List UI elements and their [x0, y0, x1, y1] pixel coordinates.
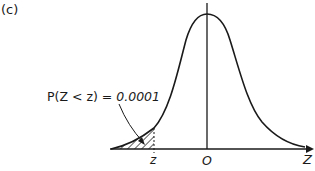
- normal-curve: [111, 14, 305, 149]
- normal-distribution-diagram: [0, 0, 315, 171]
- axis-variable-label: Z: [303, 152, 312, 167]
- annotation-value: 0.0001: [116, 89, 160, 104]
- annotation-prefix: P(Z < z) =: [47, 89, 116, 104]
- panel-label: (c): [1, 2, 18, 17]
- probability-annotation: P(Z < z) = 0.0001: [47, 89, 160, 104]
- shaded-tail-region: [111, 128, 154, 149]
- annotation-pointer: [119, 104, 143, 142]
- origin-label: O: [202, 153, 212, 168]
- critical-value-label: z: [150, 153, 156, 167]
